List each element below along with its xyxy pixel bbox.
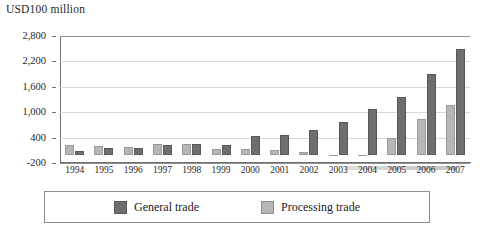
bar-group: [148, 36, 177, 163]
legend-item[interactable]: General trade: [114, 200, 199, 215]
bar-group: [265, 36, 294, 163]
bar-group: [411, 36, 440, 163]
legend-item[interactable]: Processing trade: [261, 200, 360, 215]
bar-group: [294, 36, 323, 163]
x-tick-label: 2001: [265, 165, 294, 175]
x-tick-label: 2006: [411, 165, 440, 175]
bar-processing-trade: [94, 146, 103, 155]
bar-group: [441, 36, 470, 163]
bar-general-trade: [134, 148, 143, 155]
bar-general-trade: [222, 145, 231, 154]
bar-processing-trade: [417, 119, 426, 154]
bar-general-trade: [251, 136, 260, 154]
bar-processing-trade: [329, 155, 338, 156]
y-tick-mark: [52, 163, 56, 164]
x-tick-label: 2002: [294, 165, 323, 175]
x-tick-label: 2003: [324, 165, 353, 175]
bars-layer: [60, 36, 470, 163]
x-tick-label: 1997: [148, 165, 177, 175]
y-tick-mark: [52, 61, 56, 62]
x-tick-label: 2007: [441, 165, 470, 175]
x-tick-label: 1995: [89, 165, 118, 175]
y-tick-label: 1,000: [22, 106, 46, 117]
bar-group: [60, 36, 89, 163]
bar-processing-trade: [358, 155, 367, 156]
gridline: [60, 163, 470, 164]
bar-processing-trade: [153, 144, 162, 155]
bar-general-trade: [163, 145, 172, 154]
bar-general-trade: [192, 144, 201, 155]
general-trade-swatch-icon: [114, 201, 127, 214]
bar-processing-trade: [65, 145, 74, 154]
y-tick-mark: [52, 112, 56, 113]
x-tick-label: 2000: [236, 165, 265, 175]
plot-area: [60, 36, 470, 163]
y-tick-mark: [52, 87, 56, 88]
bar-chart: USD100 million 2,8002,2001,6001,000400-2…: [0, 0, 482, 234]
x-axis-labels: 1994199519961997199819992000200120022003…: [60, 165, 470, 179]
bar-group: [177, 36, 206, 163]
x-tick-label: 2005: [382, 165, 411, 175]
bar-processing-trade: [299, 152, 308, 155]
legend-label: General trade: [134, 200, 199, 215]
bar-general-trade: [368, 109, 377, 155]
bar-general-trade: [427, 74, 436, 154]
y-tick-label: 2,800: [22, 30, 46, 41]
x-tick-label: 1998: [177, 165, 206, 175]
x-tick-label: 2004: [353, 165, 382, 175]
y-tick-label: 400: [30, 132, 46, 143]
bar-processing-trade: [182, 144, 191, 155]
bar-group: [382, 36, 411, 163]
bar-group: [324, 36, 353, 163]
bar-processing-trade: [270, 150, 279, 154]
y-tick-label: 1,600: [22, 81, 46, 92]
bar-general-trade: [104, 148, 113, 154]
bar-processing-trade: [212, 149, 221, 155]
x-tick-label: 1994: [60, 165, 89, 175]
bar-group: [206, 36, 235, 163]
bar-processing-trade: [387, 138, 396, 154]
bar-general-trade: [339, 122, 348, 155]
legend-label: Processing trade: [281, 200, 360, 215]
bar-processing-trade: [446, 105, 455, 155]
bar-group: [89, 36, 118, 163]
x-tick-label: 1999: [206, 165, 235, 175]
bar-general-trade: [75, 151, 84, 155]
bar-group: [353, 36, 382, 163]
bar-group: [236, 36, 265, 163]
chart-legend: General tradeProcessing trade: [44, 191, 430, 223]
y-axis-title: USD100 million: [6, 3, 85, 15]
processing-trade-swatch-icon: [261, 201, 274, 214]
bar-processing-trade: [124, 147, 133, 155]
bar-general-trade: [309, 130, 318, 154]
y-tick-mark: [52, 36, 56, 37]
bar-processing-trade: [241, 149, 250, 154]
y-tick-label: -200: [27, 157, 46, 168]
y-axis-ticks: 2,8002,2001,6001,000400-200: [0, 36, 56, 163]
bar-general-trade: [280, 135, 289, 155]
bar-general-trade: [456, 49, 465, 155]
bar-general-trade: [397, 97, 406, 154]
x-tick-label: 1996: [119, 165, 148, 175]
y-tick-label: 2,200: [22, 55, 46, 66]
bar-group: [119, 36, 148, 163]
y-tick-mark: [52, 138, 56, 139]
